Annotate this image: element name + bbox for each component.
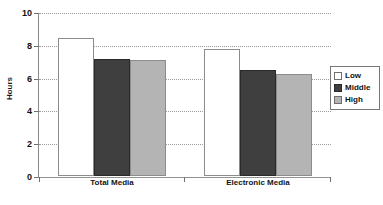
legend-swatch-high-icon [334, 96, 342, 104]
y-tick-mark-8 [34, 46, 38, 47]
y-tick-mark-4 [34, 111, 38, 112]
y-tick-mark-2 [34, 144, 38, 145]
legend-label-high: High [345, 95, 363, 105]
y-tick-mark-10 [34, 13, 38, 14]
y-tick-mark-0 [34, 177, 38, 178]
x-category-label-electronic-media: Electronic Media [226, 178, 290, 187]
y-tick-mark-6 [34, 79, 38, 80]
legend: Low Middle High [330, 66, 380, 110]
x-tick-mark-2 [330, 177, 331, 182]
y-tick-label-6: 6 [27, 74, 32, 84]
bar-electronic-media-low [204, 49, 240, 176]
plot-area: 0246810 [38, 13, 330, 177]
y-tick-label-0: 0 [27, 172, 32, 182]
legend-item-high[interactable]: High [334, 94, 376, 106]
legend-item-middle[interactable]: Middle [334, 82, 376, 94]
y-tick-label-2: 2 [27, 139, 32, 149]
gridline-10 [39, 13, 331, 14]
bar-electronic-media-middle [240, 70, 276, 176]
bar-chart: Hours 0246810 Total Media Electronic Med… [0, 0, 383, 205]
bar-total-media-high [130, 60, 166, 176]
legend-swatch-middle-icon [334, 84, 342, 92]
legend-swatch-low-icon [334, 72, 342, 80]
y-tick-label-4: 4 [27, 106, 32, 116]
y-axis-line [38, 13, 39, 178]
bar-total-media-low [58, 38, 94, 176]
legend-item-low[interactable]: Low [334, 70, 376, 82]
x-category-label-total-media: Total Media [90, 178, 133, 187]
bar-total-media-middle [94, 59, 130, 176]
y-tick-label-8: 8 [27, 41, 32, 51]
bar-electronic-media-high [276, 74, 312, 176]
x-tick-mark-1 [184, 177, 185, 182]
x-tick-mark-0 [39, 177, 40, 182]
y-axis-title: Hours [5, 67, 14, 111]
y-tick-label-10: 10 [22, 8, 32, 18]
legend-label-low: Low [345, 71, 361, 81]
legend-label-middle: Middle [345, 83, 370, 93]
